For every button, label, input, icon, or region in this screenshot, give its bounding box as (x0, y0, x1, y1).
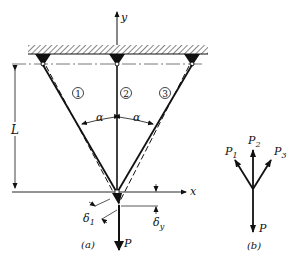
force-p3-arrow (253, 160, 271, 189)
force-p2-label: P2 (247, 134, 261, 149)
delta1-tick-bottom (102, 219, 107, 223)
delta1-tick-top (89, 202, 95, 206)
fixed-support-ceiling (28, 45, 208, 54)
caption-b: (b) (247, 240, 261, 251)
delta1-label: δ1 (83, 212, 95, 227)
bar-label-1: 1 (73, 88, 84, 99)
truss-diagram: y 1 2 (0, 0, 296, 265)
caption-a: (a) (81, 239, 95, 250)
bar-1-deformed (46, 66, 119, 203)
length-label: L (10, 123, 19, 137)
bar-label-3: 3 (160, 88, 171, 99)
svg-text:1: 1 (75, 89, 81, 99)
force-p1-label: P1 (224, 145, 238, 160)
load-label-a: P (123, 237, 132, 250)
bar-label-2: 2 (121, 88, 132, 99)
angle-label-left: α (96, 111, 104, 124)
x-axis-label: x (190, 185, 197, 198)
force-p3-label: P3 (273, 145, 287, 160)
force-p1-arrow (235, 160, 253, 189)
bar-1 (43, 65, 116, 191)
angle-label-right: α (133, 111, 141, 124)
figure-a: y 1 2 (10, 11, 208, 250)
figure-b: P1 P2 P3 P (b) (224, 134, 287, 251)
force-p-label: P (258, 222, 267, 235)
svg-text:3: 3 (162, 89, 168, 99)
deltay-label: δy (153, 216, 165, 231)
deflection-arrow (112, 193, 122, 205)
bar-3-deformed (119, 66, 189, 203)
y-axis-label: y (120, 11, 128, 24)
bar-3 (118, 65, 192, 191)
svg-text:2: 2 (123, 89, 129, 99)
